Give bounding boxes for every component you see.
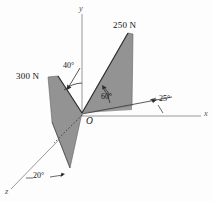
x-axis-label: x bbox=[204, 109, 208, 118]
angle-label-40: 40° bbox=[63, 62, 74, 70]
angle-40-leader bbox=[68, 68, 80, 88]
right-force-plane bbox=[82, 33, 133, 113]
z-axis-label: z bbox=[5, 187, 8, 196]
force-label-300n: 300 N bbox=[16, 72, 39, 81]
force-diagram-figure: y x z O 300 N 250 N 40° 60° 25° 20° bbox=[0, 0, 213, 202]
angle-label-20: 20° bbox=[33, 172, 44, 180]
angle-25-leader bbox=[158, 105, 163, 113]
y-axis-label: y bbox=[79, 4, 83, 13]
origin-label: O bbox=[86, 117, 93, 127]
diagram-canvas bbox=[0, 0, 213, 202]
left-force-plane bbox=[48, 76, 82, 168]
angle-20-arrowhead bbox=[61, 173, 65, 177]
angle-label-25: 25° bbox=[159, 95, 170, 103]
angle-label-60: 60° bbox=[101, 93, 112, 101]
force-label-250n: 250 N bbox=[113, 21, 136, 30]
